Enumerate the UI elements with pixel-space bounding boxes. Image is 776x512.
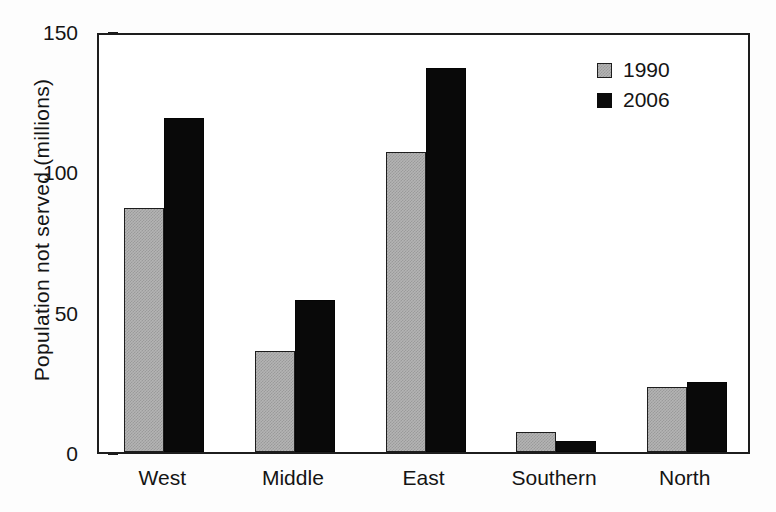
bar-north-2006 [687, 382, 727, 452]
x-tick-label-north: North [659, 466, 710, 490]
y-tick-label: 50 [20, 302, 78, 326]
x-tick-label-east: East [402, 466, 444, 490]
bar-southern-2006 [556, 441, 596, 452]
y-axis-tick-labels: 050100150 [20, 0, 78, 512]
bar-middle-2006 [295, 300, 335, 452]
y-tick-label: 100 [20, 161, 78, 185]
bar-west-2006 [164, 118, 204, 452]
x-tick-label-middle: Middle [262, 466, 324, 490]
bar-west-1990 [124, 208, 164, 452]
plot-area: 1990 2006 [97, 33, 750, 454]
bar-middle-1990 [255, 351, 295, 452]
y-tick-label: 150 [20, 21, 78, 45]
legend-swatch-1990-icon [597, 63, 612, 78]
bar-north-1990 [647, 387, 687, 452]
legend-item-1990: 1990 [597, 57, 670, 83]
legend-label-2006: 2006 [623, 88, 670, 112]
bar-east-2006 [426, 68, 466, 453]
bar-east-1990 [386, 152, 426, 452]
legend-label-1990: 1990 [623, 58, 670, 82]
y-tick-label: 0 [20, 442, 78, 466]
x-tick-label-southern: Southern [511, 466, 596, 490]
bar-chart-figure: Population not served (millions) 0501001… [0, 0, 776, 512]
bar-southern-1990 [516, 432, 556, 452]
legend-item-2006: 2006 [597, 87, 670, 113]
legend-swatch-2006-icon [597, 93, 612, 108]
x-tick-label-west: West [139, 466, 186, 490]
legend: 1990 2006 [597, 57, 670, 117]
